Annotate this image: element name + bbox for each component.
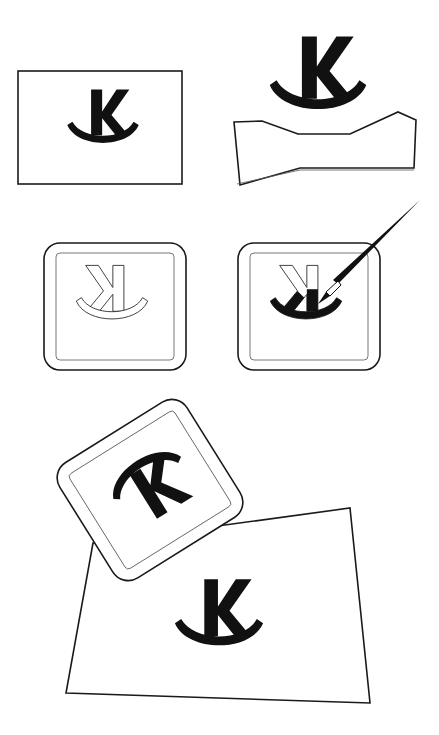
stamp-process-diagram bbox=[0, 0, 439, 735]
step-2-logo-raised bbox=[234, 37, 416, 185]
step-3-mirrored-stamp bbox=[44, 243, 186, 370]
raised-k-smile-logo bbox=[270, 37, 367, 109]
step-1-logo-artwork bbox=[18, 71, 182, 184]
step-4-inking-stamp bbox=[238, 200, 420, 370]
curled-sheet bbox=[234, 112, 416, 185]
step-5-stamping-paper bbox=[50, 393, 370, 703]
